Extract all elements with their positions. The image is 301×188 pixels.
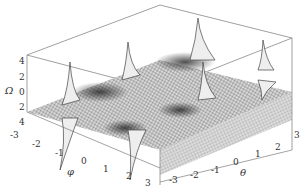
theta-tick: -2 xyxy=(190,171,199,180)
theta-tick: -1 xyxy=(211,166,220,175)
phi-tick: -2 xyxy=(32,140,41,149)
z-axis-label: Ω xyxy=(5,86,13,96)
theta-tick: 2 xyxy=(275,143,281,152)
phi-tick: -1 xyxy=(55,149,64,158)
phi-tick: 2 xyxy=(126,172,132,181)
z-tick: 0 xyxy=(19,88,25,97)
theta-tick: -3 xyxy=(169,176,178,185)
phi-tick: 3 xyxy=(145,179,151,188)
phi-tick: -3 xyxy=(10,131,19,140)
phi-tick: 0 xyxy=(81,157,87,166)
phi-tick: 1 xyxy=(103,165,109,174)
z-tick: 2 xyxy=(19,103,25,112)
z-tick: 4 xyxy=(19,57,25,66)
theta-axis-label: θ xyxy=(240,168,246,178)
theta-tick: 0 xyxy=(233,158,239,167)
theta-tick: 1 xyxy=(255,150,261,159)
z-tick: 4 xyxy=(19,118,25,127)
phi-axis-label: φ xyxy=(67,167,74,177)
surface-plot xyxy=(0,0,301,188)
z-tick: 2 xyxy=(19,73,25,82)
theta-tick: 3 xyxy=(294,131,300,140)
